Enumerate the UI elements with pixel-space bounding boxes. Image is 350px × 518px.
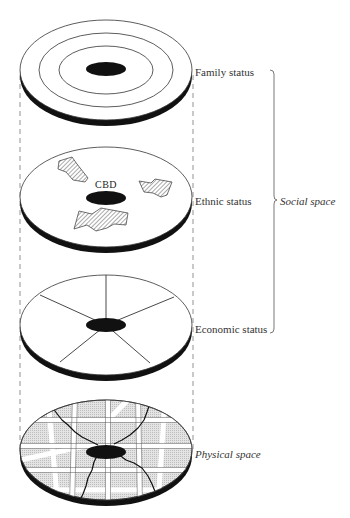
social-space-bracket (270, 70, 277, 333)
cbd-label: CBD (95, 180, 117, 190)
family-status-disk (20, 20, 192, 126)
physical-space-disk (15, 395, 200, 506)
ethnic-status-label: Ethnic status (195, 195, 252, 207)
social-space-label: Social space (280, 195, 335, 207)
dashed-guides (20, 75, 193, 450)
family-status-label: Family status (195, 66, 254, 78)
economic-status-label: Economic status (195, 323, 267, 335)
ethnic-status-disk (20, 147, 192, 253)
layer-diagram-svg (0, 0, 350, 518)
physical-space-label: Physical space (195, 448, 261, 460)
diagram-canvas: CBD Family status Ethnic status Economic… (0, 0, 350, 518)
economic-status-disk (20, 275, 192, 381)
